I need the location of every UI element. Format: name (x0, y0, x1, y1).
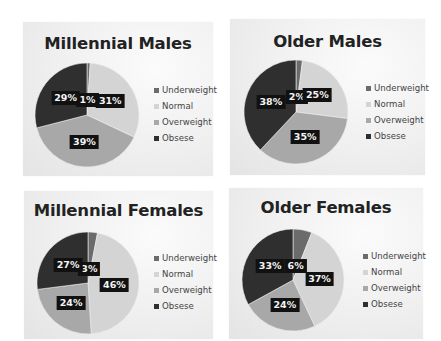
legend-label: Obsese (374, 131, 406, 141)
legend-swatch-icon (154, 304, 159, 309)
chart-title: Millennial Males (23, 34, 213, 53)
legend-label: Obsese (371, 299, 403, 309)
legend-label: Underweight (371, 251, 426, 261)
legend-swatch-icon (154, 272, 159, 277)
legend-swatch-icon (154, 136, 159, 141)
legend-label: Normal (162, 101, 193, 111)
data-label-overweight: 24% (57, 296, 86, 310)
legend-item-obsese: Obsese (366, 128, 429, 144)
legend-item-normal: Normal (363, 264, 426, 280)
legend-swatch-icon (154, 104, 159, 109)
chart-title: Older Males (230, 32, 425, 51)
legend-label: Overweight (374, 115, 424, 125)
chart-legend: UnderweightNormalOverweightObsese (366, 80, 429, 144)
legend-item-obsese: Obsese (363, 296, 426, 312)
legend-label: Underweight (374, 83, 429, 93)
legend-swatch-icon (366, 118, 371, 123)
legend-item-normal: Normal (366, 96, 429, 112)
legend-item-obsese: Obsese (154, 130, 217, 146)
legend-item-underweight: Underweight (154, 82, 217, 98)
chart-legend: UnderweightNormalOverweightObsese (154, 250, 217, 314)
legend-label: Underweight (162, 85, 217, 95)
legend-label: Obsese (162, 301, 194, 311)
legend-swatch-icon (154, 120, 159, 125)
chart-title: Older Females (229, 198, 423, 217)
data-label-overweight: 39% (70, 135, 99, 149)
chart-panel-older-females: Older Females 6%37%24%33% UnderweightNor… (229, 188, 423, 339)
legend-item-overweight: Overweight (154, 282, 217, 298)
data-label-obsese: 29% (51, 91, 80, 105)
data-label-normal: 37% (305, 272, 334, 286)
data-label-normal: 31% (96, 94, 125, 108)
legend-item-underweight: Underweight (366, 80, 429, 96)
pie-chart (243, 59, 349, 165)
legend-item-overweight: Overweight (363, 280, 426, 296)
legend-swatch-icon (363, 270, 368, 275)
chart-panel-millennial-males: Millennial Males 1%31%39%29% Underweight… (23, 22, 213, 176)
legend-swatch-icon (366, 86, 371, 91)
chart-legend: UnderweightNormalOverweightObsese (154, 82, 217, 146)
data-label-obsese: 38% (256, 95, 285, 109)
legend-swatch-icon (363, 254, 368, 259)
legend-item-underweight: Underweight (363, 248, 426, 264)
chart-panel-millennial-females: Millennial Females 3%46%24%27% Underweig… (24, 191, 213, 339)
legend-label: Overweight (162, 117, 212, 127)
legend-item-normal: Normal (154, 98, 217, 114)
legend-item-underweight: Underweight (154, 250, 217, 266)
data-label-overweight: 35% (291, 130, 320, 144)
legend-label: Underweight (162, 253, 217, 263)
legend-label: Normal (371, 267, 402, 277)
legend-label: Overweight (162, 285, 212, 295)
data-label-normal: 46% (100, 278, 129, 292)
legend-swatch-icon (154, 256, 159, 261)
data-label-overweight: 24% (270, 298, 299, 312)
legend-swatch-icon (366, 102, 371, 107)
chart-legend: UnderweightNormalOverweightObsese (363, 248, 426, 312)
data-label-normal: 25% (303, 88, 332, 102)
legend-label: Obsese (162, 133, 194, 143)
chart-title: Millennial Females (24, 201, 213, 220)
data-label-obsese: 33% (256, 259, 285, 273)
legend-swatch-icon (154, 88, 159, 93)
pie-chart (34, 62, 140, 168)
legend-label: Overweight (371, 283, 421, 293)
legend-item-overweight: Overweight (366, 112, 429, 128)
legend-swatch-icon (363, 302, 368, 307)
legend-item-overweight: Overweight (154, 114, 217, 130)
legend-swatch-icon (366, 134, 371, 139)
legend-swatch-icon (154, 288, 159, 293)
legend-label: Normal (162, 269, 193, 279)
legend-item-obsese: Obsese (154, 298, 217, 314)
legend-swatch-icon (363, 286, 368, 291)
data-label-underweight: 6% (285, 259, 307, 273)
data-label-obsese: 27% (54, 258, 83, 272)
chart-panel-older-males: Older Males 2%25%35%38% UnderweightNorma… (230, 19, 425, 175)
legend-item-normal: Normal (154, 266, 217, 282)
legend-label: Normal (374, 99, 405, 109)
